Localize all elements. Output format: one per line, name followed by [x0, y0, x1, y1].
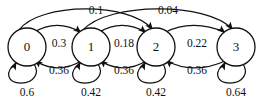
state-node-0[interactable]: 0: [8, 28, 46, 66]
state-node-1-label: 1: [88, 39, 95, 54]
edge-2-to-1-label: 0.36: [114, 64, 134, 76]
edge-1-to-2-label: 0.18: [114, 37, 134, 49]
state-node-3[interactable]: 3: [217, 28, 255, 66]
skip-edge-0-to-2-label: 0.1: [89, 4, 104, 16]
state-node-2[interactable]: 2: [137, 28, 175, 66]
skip-edge-1-to-3-label: 0.04: [158, 4, 178, 16]
edge-0-to-1: [35, 25, 82, 33]
edge-1-to-2: [100, 25, 147, 33]
edge-2-to-3-label: 0.22: [187, 37, 207, 49]
state-node-0-label: 0: [24, 39, 31, 54]
state-node-1[interactable]: 1: [72, 28, 110, 66]
edge-2-to-3-path: [166, 25, 224, 32]
markov-chain-diagram: 0 1 2 3 0.1 0.04 0.3 0.18 0.22 0.36 0.36…: [0, 0, 264, 101]
self-loop-2-label: 0.42: [146, 86, 166, 98]
state-node-3-label: 3: [233, 39, 240, 54]
edge-1-to-0-label: 0.36: [49, 64, 69, 76]
edge-2-to-3: [166, 25, 226, 33]
edge-0-to-1-path: [35, 25, 80, 32]
self-loop-0-arrowhead: [10, 62, 16, 71]
edge-3-to-2-label: 0.36: [187, 64, 207, 76]
diagram-canvas: 0 1 2 3 0.1 0.04 0.3 0.18 0.22 0.36 0.36…: [0, 0, 264, 101]
edge-1-to-2-path: [100, 25, 145, 32]
self-loop-3-label: 0.64: [226, 86, 246, 98]
self-loop-1-label: 0.42: [81, 86, 101, 98]
state-node-2-label: 2: [153, 39, 160, 54]
edge-0-to-1-label: 0.3: [52, 37, 67, 49]
self-loop-0-label: 0.6: [20, 86, 35, 98]
